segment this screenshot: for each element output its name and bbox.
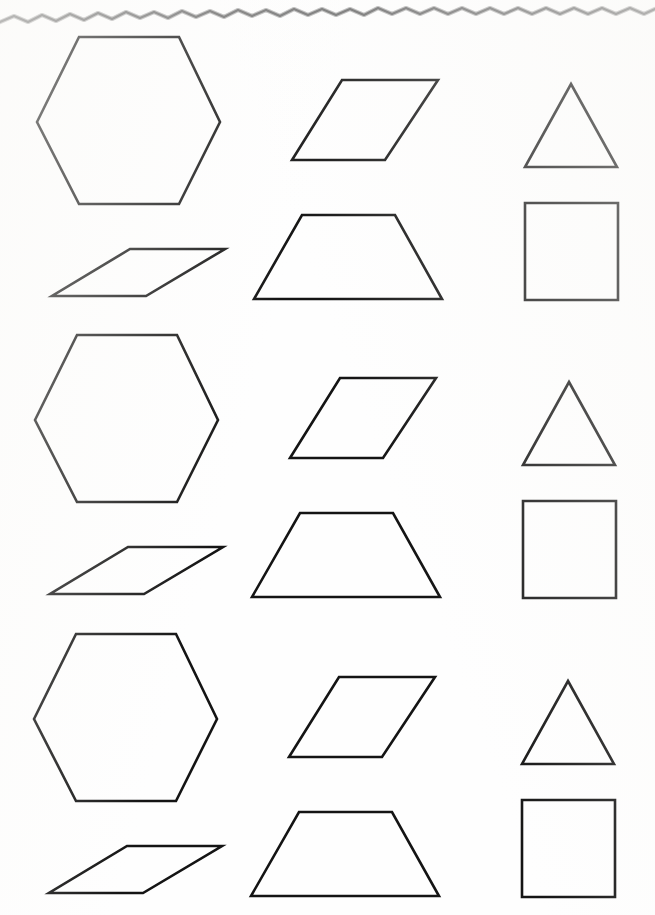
square-shape[interactable] bbox=[522, 800, 615, 897]
square-shape[interactable] bbox=[525, 203, 618, 300]
square-shape[interactable] bbox=[523, 501, 616, 598]
shapes-canvas bbox=[0, 0, 655, 915]
trapezoid-shape[interactable] bbox=[254, 215, 442, 299]
steep-parallelogram-shape[interactable] bbox=[289, 677, 435, 757]
triangle-shape[interactable] bbox=[525, 84, 617, 167]
triangle-shape[interactable] bbox=[522, 681, 614, 764]
trapezoid-shape[interactable] bbox=[252, 513, 440, 597]
torn-top-edge-group bbox=[0, 8, 655, 22]
hexagon-shape[interactable] bbox=[35, 335, 218, 502]
worksheet-page bbox=[0, 0, 655, 915]
shape-row-3 bbox=[34, 634, 615, 897]
torn-paper-edge-shadow bbox=[0, 8, 655, 22]
steep-parallelogram-shape[interactable] bbox=[290, 378, 436, 458]
flat-parallelogram-shape[interactable] bbox=[50, 547, 223, 594]
flat-parallelogram-shape[interactable] bbox=[52, 249, 225, 296]
hexagon-shape[interactable] bbox=[34, 634, 217, 801]
hexagon-shape[interactable] bbox=[37, 37, 220, 204]
trapezoid-shape[interactable] bbox=[251, 812, 439, 896]
triangle-shape[interactable] bbox=[523, 382, 615, 465]
shape-row-2 bbox=[35, 335, 616, 598]
shape-row-1 bbox=[37, 37, 618, 300]
steep-parallelogram-shape[interactable] bbox=[292, 80, 438, 160]
flat-parallelogram-shape[interactable] bbox=[49, 846, 222, 893]
